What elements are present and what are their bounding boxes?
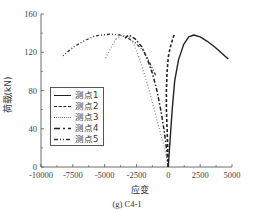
dash-long-line-swatch-icon (54, 127, 71, 130)
y-tick-label: 40 (29, 124, 38, 134)
x-tick-label: -2500 (127, 170, 147, 180)
legend-item: 测点4 (54, 123, 100, 134)
series-line (105, 39, 116, 60)
legend-item: 测点1 (54, 90, 100, 101)
legend-label: 测点1 (75, 90, 98, 101)
legend-item: 测点5 (54, 134, 100, 145)
series-line (63, 34, 156, 75)
y-tick-label: 0 (33, 162, 37, 172)
y-tick-label: 160 (24, 9, 37, 19)
y-axis-label: 荷载(kN) (2, 77, 13, 114)
legend-label: 测点3 (75, 112, 98, 123)
solid-line-swatch-icon (54, 95, 71, 96)
legend-item: 测点3 (54, 112, 100, 123)
legend-label: 测点2 (75, 101, 98, 112)
x-tick-label: 2500 (192, 170, 209, 180)
x-tick-label: -5000 (95, 170, 115, 180)
x-axis-label: 应变 (131, 184, 149, 195)
x-tick-label: 0 (166, 170, 170, 180)
x-tick-label: -7500 (63, 170, 83, 180)
legend-item: 测点2 (54, 101, 100, 112)
series-line (168, 35, 228, 167)
legend-label: 测点5 (75, 134, 98, 145)
dotted-line-swatch-icon (54, 117, 71, 118)
x-tick-label: 5000 (224, 170, 241, 180)
dash-dot-line-swatch-icon (54, 138, 71, 141)
chart-canvas: -10000-7500-5000-25000250050000408012016… (0, 0, 254, 213)
legend-label: 测点4 (75, 123, 98, 134)
y-tick-label: 120 (24, 47, 37, 57)
figure-caption: (g) C4-1 (0, 199, 254, 209)
y-tick-label: 80 (29, 86, 38, 96)
dashed-line-swatch-icon (54, 106, 71, 107)
series-line (116, 35, 168, 167)
legend: 测点1 测点2 测点3 测点4 测点5 (50, 87, 104, 146)
